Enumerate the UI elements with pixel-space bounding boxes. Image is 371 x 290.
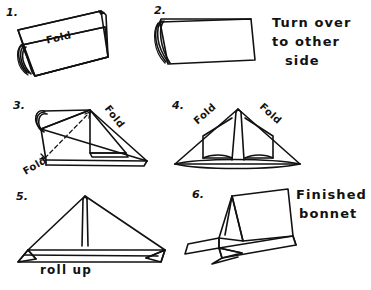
step-6-note-line-2: bonnet (299, 205, 357, 222)
step-2-note-line-1: Turn over (272, 14, 351, 31)
step-3-number: 3. (13, 99, 25, 112)
step-6-number: 6. (192, 188, 204, 201)
step-6-note-line-1: Finished (296, 186, 367, 203)
step-1-drawing (18, 11, 108, 76)
step-2-number: 2. (154, 4, 166, 17)
step-2-note-line-2: to other (272, 33, 340, 50)
step-4-number: 4. (172, 99, 184, 112)
step-2-note-line-3: side (285, 52, 320, 69)
step-1-number: 1. (6, 6, 18, 19)
step-3-drawing (36, 110, 147, 166)
step-5-drawing (18, 196, 165, 262)
instruction-sheet: 1. Fold 2. Turn over to other side 3. Fo… (0, 0, 371, 290)
step-2-drawing (155, 19, 255, 64)
step-5-rollup-label: roll up (40, 263, 92, 277)
step-5-number: 5. (16, 190, 28, 203)
